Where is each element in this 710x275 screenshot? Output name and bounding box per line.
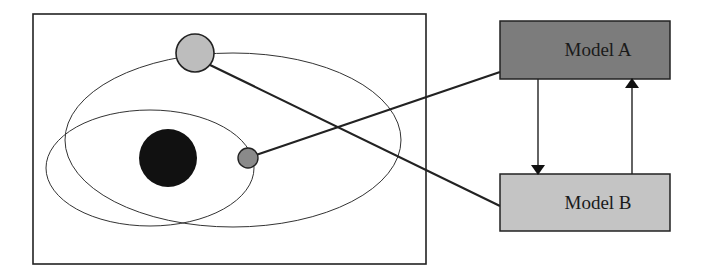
orbit-model-diagram: Model A Model B bbox=[0, 0, 710, 275]
model-a-label: Model A bbox=[564, 39, 631, 60]
small-satellite bbox=[238, 148, 258, 168]
central-body bbox=[139, 129, 197, 187]
model-b-box: Model B bbox=[500, 174, 670, 231]
large-satellite bbox=[176, 34, 214, 72]
model-b-label: Model B bbox=[564, 192, 631, 213]
model-a-box: Model A bbox=[500, 21, 670, 79]
